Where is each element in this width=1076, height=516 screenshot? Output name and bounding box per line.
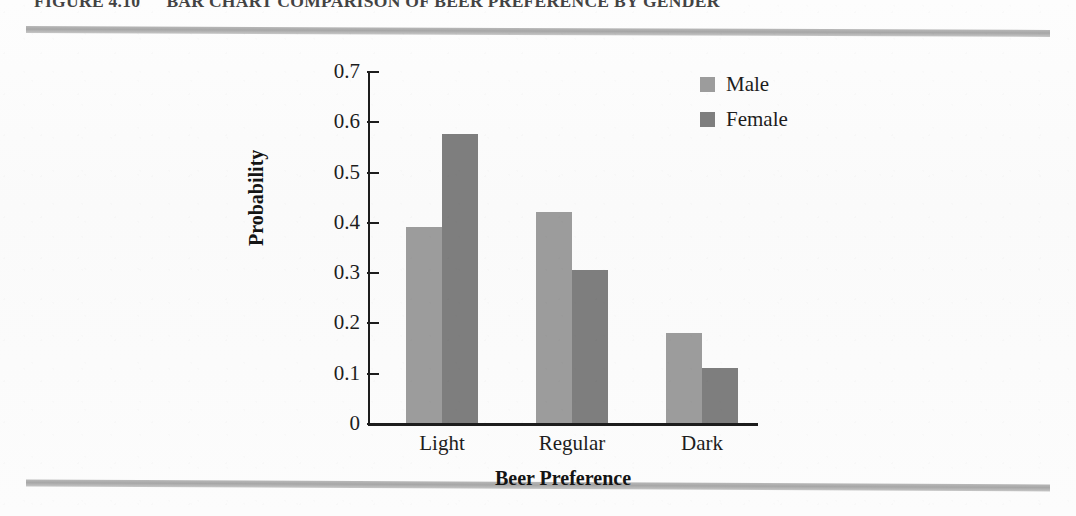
legend-item-male: Male bbox=[700, 72, 788, 97]
y-tick-mark bbox=[367, 373, 379, 375]
y-tick-mark bbox=[367, 172, 379, 174]
y-tick-label: 0.5 bbox=[334, 159, 360, 184]
bar-light-male bbox=[406, 227, 442, 423]
bar-regular-male bbox=[536, 212, 572, 423]
legend-label-male: Male bbox=[726, 72, 769, 97]
figure-number: FIGURE 4.10 bbox=[34, 0, 140, 11]
legend-label-female: Female bbox=[726, 107, 788, 132]
y-axis-title: Probability bbox=[245, 150, 268, 246]
figure-title: BAR CHART COMPARISON OF BEER PREFERENCE … bbox=[166, 0, 719, 11]
y-tick-mark bbox=[367, 222, 379, 224]
y-tick-label: 0.1 bbox=[334, 360, 360, 385]
y-tick-label: 0.4 bbox=[334, 209, 360, 234]
figure-caption: FIGURE 4.10BAR CHART COMPARISON OF BEER … bbox=[0, 0, 1076, 14]
legend-swatch-male-icon bbox=[700, 77, 715, 92]
legend-item-female: Female bbox=[700, 107, 788, 132]
y-tick-label: 0.7 bbox=[334, 59, 360, 84]
bar-dark-male bbox=[666, 333, 702, 424]
y-tick-mark bbox=[367, 322, 379, 324]
x-axis-line bbox=[368, 423, 758, 426]
y-tick-label: 0 bbox=[350, 411, 361, 436]
chart-legend: Male Female bbox=[700, 72, 788, 142]
y-tick-label: 0.2 bbox=[334, 310, 360, 335]
y-tick-mark bbox=[367, 272, 379, 274]
x-category-label-light: Light bbox=[419, 431, 465, 456]
bar-dark-female bbox=[702, 368, 738, 423]
y-tick-mark bbox=[367, 121, 379, 123]
x-category-label-dark: Dark bbox=[681, 431, 723, 456]
y-tick-label: 0.3 bbox=[334, 260, 360, 285]
y-tick-mark bbox=[367, 423, 379, 425]
y-tick-label: 0.6 bbox=[334, 109, 360, 134]
y-tick-mark bbox=[367, 71, 379, 73]
chart-figure: Probability 00.10.20.30.40.50.60.7 Light… bbox=[0, 36, 1076, 476]
x-axis-title: Beer Preference bbox=[368, 467, 758, 490]
x-category-label-regular: Regular bbox=[539, 431, 605, 456]
bar-light-female bbox=[442, 134, 478, 423]
legend-swatch-female-icon bbox=[700, 112, 715, 127]
bar-regular-female bbox=[572, 270, 608, 423]
